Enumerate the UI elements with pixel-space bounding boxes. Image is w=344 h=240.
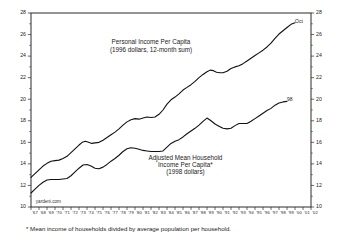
x-tick-label: '73 bbox=[80, 210, 86, 215]
y-tick-label-right: 26 bbox=[316, 31, 322, 37]
y-tick-label-right: 28 bbox=[316, 9, 322, 15]
x-tick-label: '98 bbox=[280, 210, 286, 215]
x-tick-label: '83 bbox=[160, 210, 166, 215]
x-tick-label: '99 bbox=[288, 210, 294, 215]
x-tick-label: '78 bbox=[120, 210, 126, 215]
y-tick-label-left: 22 bbox=[20, 74, 26, 80]
lower-endpoint-label: 98 bbox=[287, 96, 293, 102]
x-tick-label: '69 bbox=[48, 210, 54, 215]
x-tick-label: '71 bbox=[64, 210, 70, 215]
y-tick-label-left: 10 bbox=[20, 203, 26, 209]
watermark-label: yardeni.com bbox=[36, 199, 61, 204]
x-tick-label: '79 bbox=[128, 210, 134, 215]
x-tick-label: '97 bbox=[272, 210, 278, 215]
x-tick-label: '80 bbox=[136, 210, 142, 215]
y-tick-label-right: 16 bbox=[316, 139, 322, 145]
x-tick-label: '01 bbox=[304, 210, 310, 215]
y-tick-label-left: 18 bbox=[20, 117, 26, 123]
y-tick-label-right: 24 bbox=[316, 52, 322, 58]
y-tick-label-right: 10 bbox=[316, 203, 322, 209]
x-tick-label: '70 bbox=[56, 210, 62, 215]
y-tick-label-right: 12 bbox=[316, 182, 322, 188]
x-tick-label: '82 bbox=[152, 210, 158, 215]
x-tick-label: '94 bbox=[248, 210, 254, 215]
chart-background bbox=[0, 0, 344, 240]
y-tick-label-right: 22 bbox=[316, 74, 322, 80]
x-tick-label: '90 bbox=[216, 210, 222, 215]
x-tick-label: '85 bbox=[176, 210, 182, 215]
y-tick-label-left: 16 bbox=[20, 139, 26, 145]
x-tick-label: '74 bbox=[88, 210, 94, 215]
x-tick-label: '76 bbox=[104, 210, 110, 215]
y-tick-label-left: 26 bbox=[20, 31, 26, 37]
y-tick-label-left: 24 bbox=[20, 52, 26, 58]
y-tick-label-left: 20 bbox=[20, 96, 26, 102]
x-tick-label: '02 bbox=[312, 210, 318, 215]
x-tick-label: '93 bbox=[240, 210, 246, 215]
x-tick-label: '88 bbox=[200, 210, 206, 215]
x-tick-label: '00 bbox=[296, 210, 302, 215]
upper-series-label-line-1: (1996 dollars, 12-month sum) bbox=[110, 46, 192, 54]
income-per-capita-line-chart: 10121416182022242628 1012141618202224262… bbox=[0, 0, 344, 240]
upper-endpoint-label: Oct bbox=[295, 18, 303, 24]
x-tick-label: '89 bbox=[208, 210, 214, 215]
x-tick-label: '77 bbox=[112, 210, 118, 215]
footnote: * Mean income of households divided by a… bbox=[26, 225, 231, 232]
y-tick-label-right: 14 bbox=[316, 160, 322, 166]
x-tick-label: '68 bbox=[40, 210, 46, 215]
x-tick-label: '84 bbox=[168, 210, 174, 215]
chart-container: 10121416182022242628 1012141618202224262… bbox=[0, 0, 344, 240]
x-tick-label: '75 bbox=[96, 210, 102, 215]
x-tick-label: '81 bbox=[144, 210, 150, 215]
lower-series-label-line-2: (1998 dollars) bbox=[166, 168, 205, 176]
y-tick-label-left: 12 bbox=[20, 182, 26, 188]
y-tick-label-left: 28 bbox=[20, 9, 26, 15]
upper-series-label: Personal Income Per Capita(1996 dollars,… bbox=[110, 38, 192, 53]
x-tick-label: '92 bbox=[232, 210, 238, 215]
x-tick-label: '95 bbox=[256, 210, 262, 215]
y-tick-label-right: 20 bbox=[316, 96, 322, 102]
y-tick-label-left: 14 bbox=[20, 160, 26, 166]
x-tick-label: '87 bbox=[192, 210, 198, 215]
x-tick-label: '86 bbox=[184, 210, 190, 215]
y-tick-label-right: 18 bbox=[316, 117, 322, 123]
x-tick-label: '72 bbox=[72, 210, 78, 215]
x-tick-label: '67 bbox=[32, 210, 38, 215]
x-tick-label: '91 bbox=[224, 210, 230, 215]
x-tick-label: '96 bbox=[264, 210, 270, 215]
